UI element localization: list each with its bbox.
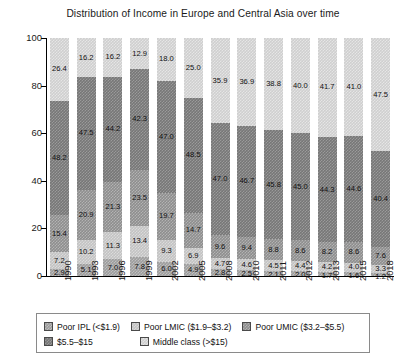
data-label: 8.6 [285,247,315,255]
legend-swatch-icon [131,322,140,331]
data-label: 8.6 [339,248,369,256]
y-axis-tick-label: 60 [12,127,42,138]
bar-segment: 8.8 [264,239,283,260]
y-axis-tick-label: 0 [12,270,42,281]
legend-item[interactable]: Poor LMIC ($1.9–$3.2) [131,322,231,332]
data-label: 23.5 [125,194,155,202]
bar-2002[interactable]: 6.09.319.747.018.0 [157,38,176,276]
data-label: 16.2 [98,53,128,61]
bar-segment: 16.2 [77,38,96,77]
x-axis-tick-label: 2018 [385,260,395,281]
bar-segment: 12.9 [130,38,149,69]
data-label: 26.4 [44,65,74,73]
bar-segment: 25.0 [184,38,203,98]
data-label: 18.0 [151,55,181,63]
legend-label: Poor IPL (<$1.9) [57,322,120,332]
chart-legend: Poor IPL (<$1.9)Poor LMIC ($1.9–$3.2)Poo… [36,313,370,353]
bar-segment: 41.0 [344,38,363,136]
bar-1996[interactable]: 7.011.321.344.216.2 [103,38,122,276]
bar-1990[interactable]: 2.97.215.448.226.4 [50,38,69,276]
bar-segment: 14.7 [184,213,203,248]
y-axis-tick-label: 20 [12,222,42,233]
bar-segment: 47.0 [211,123,230,235]
bar-segment: 45.8 [264,130,283,239]
bar-segment: 38.8 [264,38,283,130]
data-label: 9.3 [151,247,181,255]
bar-segment: 44.2 [103,77,122,182]
legend-swatch-icon [242,322,251,331]
bar-segment: 18.0 [157,38,176,81]
bar-segment: 20.9 [77,190,96,240]
data-label: 6.9 [178,252,208,260]
data-label: 47.5 [71,129,101,137]
data-label: 13.4 [125,237,155,245]
bar-2018[interactable]: 1.23.37.640.447.5 [371,38,390,276]
bar-2008[interactable]: 2.84.79.647.035.9 [211,38,230,276]
bar-2010[interactable]: 2.54.69.446.736.9 [237,38,256,276]
bar-segment: 36.9 [237,38,256,126]
bar-segment: 9.6 [211,235,230,258]
data-label: 25.0 [178,64,208,72]
data-label: 20.9 [71,211,101,219]
data-label: 19.7 [151,212,181,220]
bar-1993[interactable]: 5.110.220.947.516.2 [77,38,96,276]
bar-segment: 11.3 [103,232,122,259]
data-label: 7.6 [366,252,396,260]
bar-segment: 15.4 [50,215,69,252]
data-label: 45.0 [285,183,315,191]
legend-item[interactable]: Middle class (>$15) [140,337,228,347]
bar-segment: 47.0 [157,81,176,193]
data-label: 44.6 [339,185,369,193]
data-label: 47.0 [205,175,235,183]
data-label: 8.2 [312,248,342,256]
bar-segment: 8.6 [291,240,310,260]
bar-segment: 46.7 [237,126,256,237]
bar-2013[interactable]: 1.74.28.244.341.7 [318,38,337,276]
legend-item[interactable]: $5.5–$15 [44,337,93,347]
data-label: 35.9 [205,77,235,85]
data-label: 38.8 [259,80,289,88]
data-label: 9.6 [205,243,235,251]
legend-swatch-icon [44,337,53,346]
bar-segment: 8.2 [318,242,337,262]
data-label: 21.3 [98,203,128,211]
legend-row-1: Poor IPL (<$1.9)Poor LMIC ($1.9–$3.2)Poo… [44,319,362,334]
bar-segment: 23.5 [130,170,149,226]
data-label: 40.4 [366,195,396,203]
data-label: 10.2 [71,248,101,256]
data-label: 47.5 [366,91,396,99]
data-label: 45.8 [259,181,289,189]
legend-swatch-icon [44,322,53,331]
bar-segment: 16.2 [103,38,122,77]
bar-2005[interactable]: 4.96.914.748.525.0 [184,38,203,276]
data-label: 44.3 [312,186,342,194]
bar-segment: 44.6 [344,136,363,242]
data-label: 15.4 [44,230,74,238]
data-label: 40.0 [285,82,315,90]
bar-segment: 41.7 [318,38,337,137]
bar-segment: 42.3 [130,69,149,170]
legend-item[interactable]: Poor UMIC ($3.2–$5.5) [242,322,344,332]
data-label: 48.2 [44,154,74,162]
bar-2011[interactable]: 2.14.58.845.838.8 [264,38,283,276]
bar-segment: 19.7 [157,193,176,240]
bar-2012[interactable]: 2.04.48.645.040.0 [291,38,310,276]
data-label: 46.7 [232,177,262,185]
legend-label: Middle class (>$15) [153,337,228,347]
data-label: 8.8 [259,246,289,254]
chart-root: Distribution of Income in Europe and Cen… [0,0,406,364]
bar-segment: 44.3 [318,137,337,242]
data-label: 9.4 [232,244,262,252]
bar-2015[interactable]: 1.64.08.644.641.0 [344,38,363,276]
bar-1999[interactable]: 7.813.423.542.312.9 [130,38,149,276]
y-axis-tick-label: 40 [12,175,42,186]
legend-item[interactable]: Poor IPL (<$1.9) [44,322,120,332]
bar-segment: 40.4 [371,151,390,247]
y-axis-tick-label: 80 [12,80,42,91]
chart-title: Distribution of Income in Europe and Cen… [0,8,406,19]
bar-segment: 47.5 [371,38,390,151]
bar-segment: 40.0 [291,38,310,133]
data-label: 48.5 [178,151,208,159]
data-label: 12.9 [125,50,155,58]
bar-segment: 26.4 [50,38,69,101]
